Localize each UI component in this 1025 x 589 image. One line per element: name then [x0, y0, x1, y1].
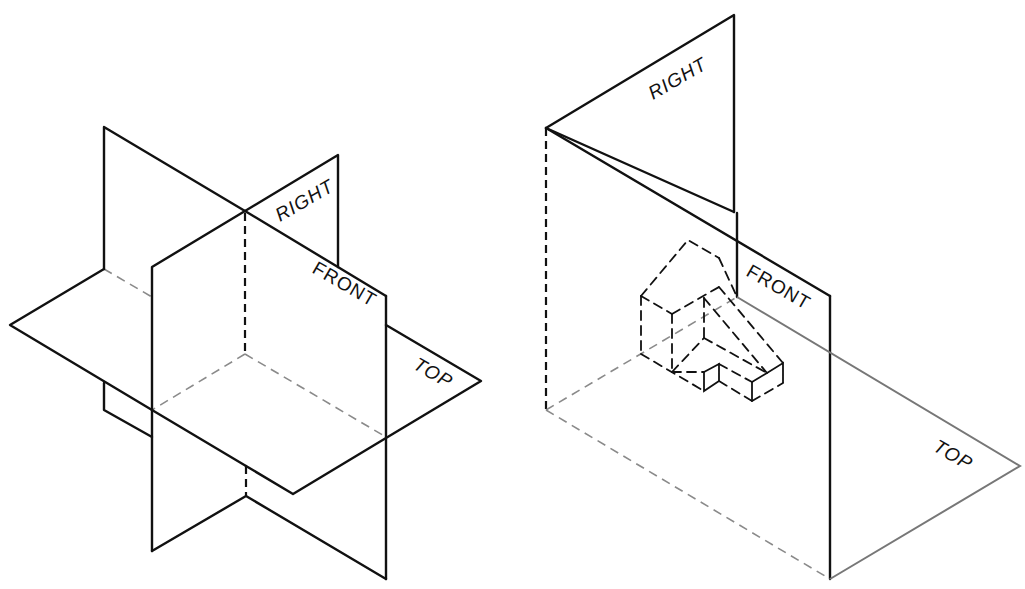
front-plane [152, 211, 245, 551]
right-plane-left-upper [104, 127, 245, 269]
label-top: TOP [930, 435, 977, 474]
label-top: TOP [410, 353, 457, 392]
label-front: FRONT [743, 260, 815, 313]
label-right: RIGHT [272, 175, 338, 225]
top-plane [10, 269, 152, 410]
label-right: RIGHT [645, 53, 711, 103]
figure-first-octant: RIGHT FRONT TOP [546, 15, 1020, 579]
label-front: FRONT [309, 257, 381, 310]
front-plane [546, 128, 734, 212]
top-plane [737, 297, 1020, 579]
hidden-lines [104, 213, 386, 496]
figure-intersecting-planes: RIGHT FRONT TOP [10, 127, 481, 579]
projection-planes-diagram: RIGHT FRONT TOP [0, 0, 1025, 589]
